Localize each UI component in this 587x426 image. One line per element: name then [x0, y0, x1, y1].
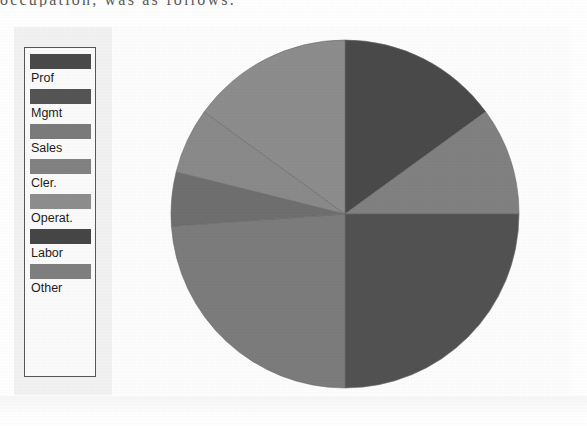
pie-slice-cler[interactable]	[171, 214, 345, 388]
pie-slice-sales[interactable]	[345, 214, 519, 388]
legend-swatch-mgmt	[30, 89, 91, 104]
legend-swatch-sales	[30, 124, 91, 139]
legend-item-cler[interactable]: Cler.	[30, 159, 90, 191]
legend-label-sales: Sales	[30, 139, 90, 156]
legend-swatch-prof	[30, 54, 91, 69]
legend-item-mgmt[interactable]: Mgmt	[30, 89, 90, 121]
legend-label-cler: Cler.	[30, 174, 90, 191]
pie-chart-svg	[170, 33, 520, 395]
legend-label-other: Other	[30, 279, 90, 296]
legend-label-prof: Prof	[30, 69, 90, 86]
pie-legend: Prof Mgmt Sales Cler. Operat. Labor Othe…	[24, 47, 96, 377]
pie-chart	[170, 33, 520, 395]
legend-item-other[interactable]: Other	[30, 264, 90, 296]
legend-swatch-cler	[30, 159, 91, 174]
figure-page: occupation, was as follows: Prof Mgmt Sa…	[0, 0, 587, 426]
pie-slices-group	[171, 40, 519, 388]
legend-item-operat[interactable]: Operat.	[30, 194, 90, 226]
legend-item-sales[interactable]: Sales	[30, 124, 90, 156]
legend-label-operat: Operat.	[30, 209, 90, 226]
scan-header-text: occupation, was as follows:	[0, 0, 587, 7]
legend-swatch-operat	[30, 194, 91, 209]
legend-label-mgmt: Mgmt	[30, 104, 90, 121]
legend-item-prof[interactable]: Prof	[30, 54, 90, 86]
page-bottom-fade	[0, 396, 587, 426]
legend-swatch-other	[30, 264, 91, 279]
legend-swatch-labor	[30, 229, 91, 244]
legend-item-labor[interactable]: Labor	[30, 229, 90, 261]
legend-label-labor: Labor	[30, 244, 90, 261]
